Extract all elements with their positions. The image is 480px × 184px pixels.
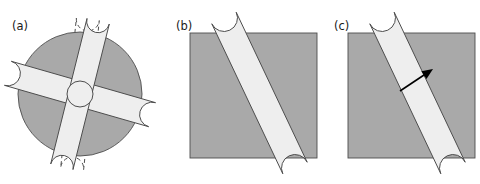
panel-c: (c) xyxy=(0,0,480,184)
panel-label-c: (c) xyxy=(334,19,349,33)
figure-container: (a) (b) (c) xyxy=(0,0,480,184)
